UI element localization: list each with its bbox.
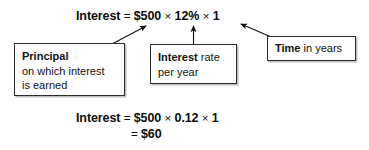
equation-top-label: Interest [76, 9, 120, 23]
equation-result-equals: = [131, 128, 138, 140]
callout-interest-rate: Interest rate per year [150, 44, 237, 84]
callout-principal-term: Principal [22, 49, 124, 64]
equation-bottom-time: 1 [212, 111, 219, 125]
equation-top-time: 1 [213, 9, 220, 23]
equation-bottom-rate: 0.12 [175, 111, 199, 125]
interest-formula-diagram: Interest = $500 × 12% × 1 Principal on w… [0, 0, 369, 150]
equation-bottom-times-1: × [165, 112, 172, 124]
arrow-principal-to-500 [113, 26, 146, 44]
callout-principal: Principal on which interest is earned [14, 43, 125, 96]
callout-rate-line-1-rest: rate [198, 51, 220, 63]
equation-top-times-1: × [165, 10, 172, 22]
callout-rate-line-1: Interest rate [158, 50, 236, 65]
equation-top-rate: 12% [175, 9, 200, 23]
equation-bottom-principal: $500 [134, 111, 161, 125]
equation-top-principal: $500 [134, 9, 161, 23]
callout-rate-line-2: per year [158, 65, 236, 80]
callout-time-line-1: Time in years [275, 41, 355, 56]
equation-top: Interest = $500 × 12% × 1 [76, 9, 219, 23]
equation-bottom-equals: = [124, 112, 131, 124]
equation-top-equals: = [124, 10, 131, 22]
equation-bottom-line-2: = $60 [131, 127, 162, 141]
callout-principal-line-3: is earned [22, 78, 124, 93]
callout-time-line-1-rest: in years [300, 42, 342, 54]
callout-principal-line-2: on which interest [22, 64, 124, 79]
arrow-time-to-1 [241, 24, 270, 37]
equation-bottom-label: Interest [76, 111, 120, 125]
callout-time: Time in years [267, 36, 356, 61]
equation-bottom-line-1: Interest = $500 × 0.12 × 1 [76, 111, 219, 125]
equation-bottom-times-2: × [202, 112, 209, 124]
equation-result-value: $60 [141, 127, 162, 141]
equation-top-times-2: × [203, 10, 210, 22]
